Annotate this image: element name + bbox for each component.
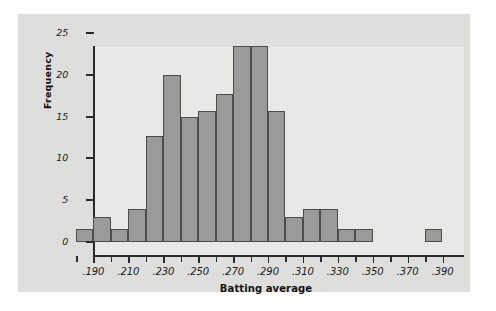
x-axis-minor-tick [146, 256, 148, 262]
histogram-bar [93, 217, 110, 242]
x-axis-minor-tick [216, 256, 218, 262]
y-axis-tick [86, 74, 94, 76]
x-axis-minor-tick [76, 256, 78, 262]
y-axis-tick-label: 25 [40, 27, 68, 38]
x-axis-tick [268, 256, 270, 263]
histogram-bar [181, 117, 198, 242]
x-axis-tick [373, 256, 375, 263]
x-axis-minor-tick [390, 256, 392, 262]
y-axis-tick [86, 199, 94, 201]
histogram-bar [285, 217, 302, 242]
histogram-bar [146, 136, 163, 242]
x-axis-tick [233, 256, 235, 263]
x-axis-minor-tick [425, 256, 427, 262]
y-axis-tick-label: 20 [40, 69, 68, 80]
x-axis-minor-tick [251, 256, 253, 262]
y-axis-tick [86, 116, 94, 118]
histogram-bar [303, 209, 320, 242]
histogram-bar [233, 46, 250, 242]
x-axis-minor-tick [181, 256, 183, 262]
x-axis-title: Batting average [18, 283, 496, 294]
histogram-bar [216, 94, 233, 242]
histogram-bar [111, 229, 128, 242]
histogram-bar [425, 229, 442, 242]
x-axis-tick [443, 256, 445, 263]
histogram-bar [338, 229, 355, 242]
x-axis-tick-label: .390 [423, 266, 463, 277]
histogram-bar [320, 209, 337, 242]
x-axis-tick [303, 256, 305, 263]
histogram-bar [268, 111, 285, 242]
figure-panel: Frequency Batting average 0510152025.190… [18, 14, 470, 292]
x-axis-tick [198, 256, 200, 263]
histogram-bar [251, 46, 268, 242]
x-axis-tick [93, 256, 95, 263]
histogram-bar [198, 111, 215, 242]
x-axis-minor-tick [111, 256, 113, 262]
x-axis-minor-tick [355, 256, 357, 262]
x-axis-tick [408, 256, 410, 263]
y-axis-tick-label: 0 [40, 236, 68, 247]
x-axis-tick [338, 256, 340, 263]
histogram-figure: Frequency Batting average 0510152025.190… [0, 0, 496, 311]
histogram-bar [128, 209, 145, 242]
y-axis-tick-label: 15 [40, 111, 68, 122]
y-axis-tick-label: 5 [40, 194, 68, 205]
x-axis-minor-tick [285, 256, 287, 262]
x-axis-tick [128, 256, 130, 263]
y-axis-title: Frequency [42, 52, 53, 109]
histogram-bar [163, 75, 180, 242]
x-axis-tick [163, 256, 165, 263]
x-axis-minor-tick [320, 256, 322, 262]
y-axis-tick-label: 10 [40, 152, 68, 163]
y-axis-tick [86, 241, 94, 243]
histogram-bar [355, 229, 372, 242]
y-axis-tick [86, 157, 94, 159]
y-axis-tick [86, 32, 94, 34]
